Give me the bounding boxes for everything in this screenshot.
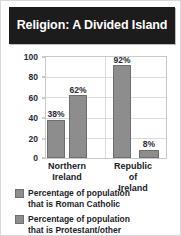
bar-value-label-8: 8% bbox=[143, 139, 155, 149]
y-tick-label-0: 0 bbox=[33, 153, 38, 163]
y-tick-label-100: 100 bbox=[24, 52, 38, 62]
legend-item-protestant-other: Percentage of population that is Protest… bbox=[15, 214, 175, 235]
y-tick-label-60: 60 bbox=[29, 93, 38, 103]
y-tick-label-20: 20 bbox=[29, 134, 38, 144]
legend-item-roman-catholic: Percentage of population that is Roman C… bbox=[15, 188, 175, 209]
page-title: Religion: A Divided Island bbox=[11, 18, 174, 33]
gridline-80 bbox=[46, 77, 166, 78]
y-axis: 100 80 60 40 20 0 bbox=[1, 56, 45, 159]
bar-value-label-92: 92% bbox=[113, 55, 130, 65]
bar-northern-ireland-protestant bbox=[69, 95, 87, 158]
category-label-northern-ireland: Northern Ireland bbox=[48, 161, 86, 183]
bar-value-label-38: 38% bbox=[47, 109, 64, 119]
gridline-60 bbox=[46, 97, 166, 98]
plot-area: 38% 62% 92% 8% bbox=[45, 56, 167, 159]
legend-swatch-icon-protestant-other bbox=[15, 215, 24, 224]
legend-swatch-icon-roman-catholic bbox=[15, 189, 24, 198]
chart-legend: Percentage of population that is Roman C… bbox=[15, 188, 175, 236]
bar-republic-ireland-catholic bbox=[113, 65, 131, 158]
bar-republic-ireland-protestant bbox=[139, 150, 159, 158]
bar-northern-ireland-catholic bbox=[47, 120, 65, 158]
bar-value-label-62: 62% bbox=[69, 85, 86, 95]
chart-figure: Religion: A Divided Island 100 80 60 40 … bbox=[0, 0, 181, 236]
group-divider-gridline bbox=[105, 57, 106, 158]
y-tick-label-40: 40 bbox=[29, 113, 38, 123]
y-tick-label-80: 80 bbox=[29, 72, 38, 82]
legend-label-roman-catholic: Percentage of population that is Roman C… bbox=[28, 188, 130, 209]
x-axis-category-labels: Northern Ireland Republic of Ireland bbox=[45, 161, 167, 187]
legend-label-protestant-other: Percentage of population that is Protest… bbox=[28, 214, 130, 235]
chart-title-banner: Religion: A Divided Island bbox=[9, 7, 175, 44]
